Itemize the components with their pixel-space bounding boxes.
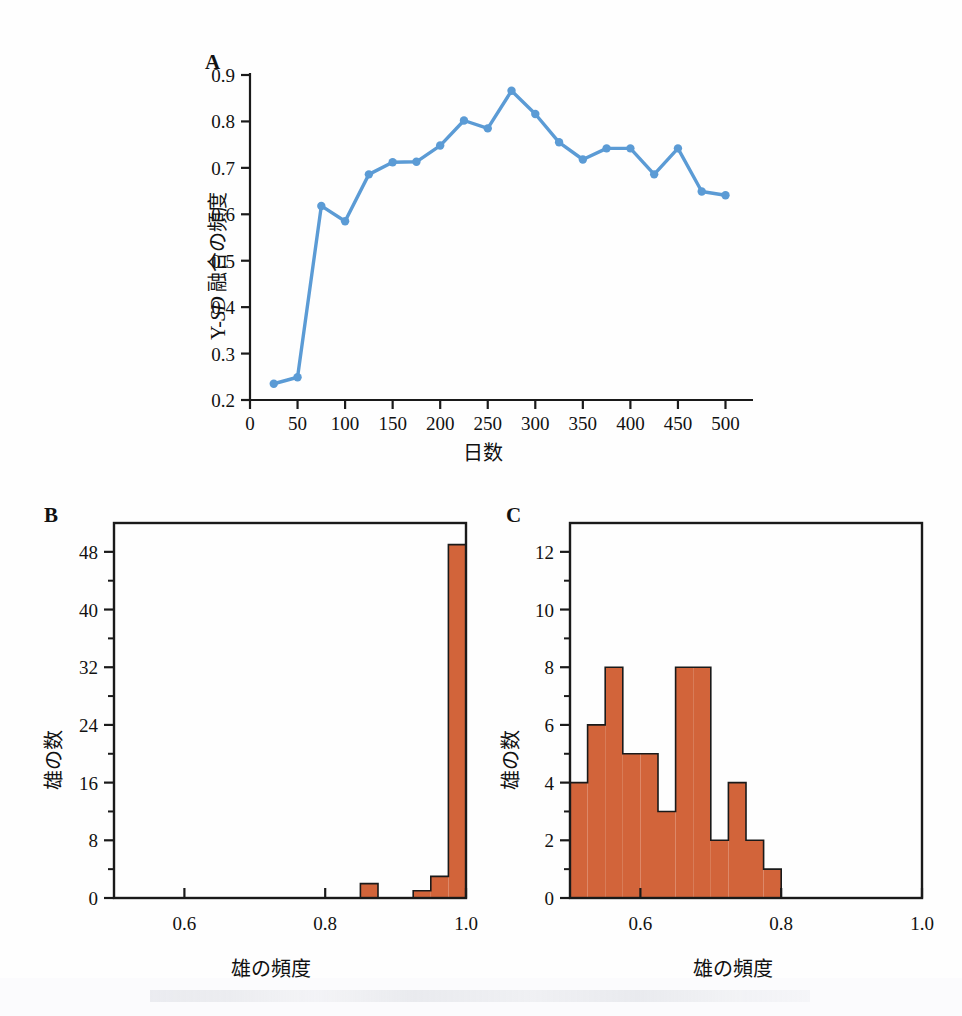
panel-c-plot: 0246810120.60.81.0 — [462, 500, 962, 950]
panel-c-bar — [764, 869, 782, 898]
panel-c-bar — [693, 667, 711, 898]
panel-c-bar — [676, 667, 694, 898]
panel-a-line-path — [274, 91, 726, 384]
panel-b-y-tick-label: 8 — [89, 830, 99, 851]
panel-b: B 雄の数 雄の頻度 0816243240480.60.81.0 — [0, 500, 500, 1000]
panel-a-data-point — [602, 144, 610, 152]
panel-c-y-tick-label: 12 — [535, 542, 554, 563]
panel-a-x-tick-label: 400 — [616, 413, 645, 434]
panel-c-x-tick-label: 1.0 — [910, 913, 934, 934]
panel-c-y-tick-label: 2 — [545, 830, 555, 851]
panel-b-y-tick-label: 0 — [89, 888, 99, 909]
panel-a-data-point — [650, 170, 658, 178]
panel-c-bar — [570, 783, 588, 898]
panel-a-series — [270, 87, 730, 388]
panel-c-bar — [658, 811, 676, 898]
panel-a-data-point — [674, 144, 682, 152]
panel-a-x-tick-label: 350 — [569, 413, 598, 434]
panel-c-y-tick-label: 0 — [545, 888, 555, 909]
panel-c-bar — [640, 754, 658, 898]
panel-a-data-point — [555, 138, 563, 146]
panel-a-x-tick-label: 50 — [288, 413, 307, 434]
panel-c-x-tick-label: 0.6 — [629, 913, 653, 934]
panel-b-y-tick-label: 40 — [79, 600, 98, 621]
panel-b-x-tick-label: 0.8 — [313, 913, 337, 934]
panel-a-y-tick-label: 0.3 — [211, 344, 235, 365]
panel-b-y-tick-label: 48 — [79, 542, 98, 563]
panel-a: A Y-SD 融合の頻度 日数 0.20.30.40.50.60.70.80.9… — [0, 0, 790, 480]
panel-b-y-tick-label: 16 — [79, 773, 98, 794]
panel-c-bar — [588, 725, 606, 898]
panel-c-y-tick-label: 8 — [545, 657, 555, 678]
panel-a-data-point — [388, 158, 396, 166]
panel-a-data-point — [436, 141, 444, 149]
panel-a-x-axis-title: 日数 — [463, 437, 503, 466]
panel-c-y-tick-label: 10 — [535, 600, 554, 621]
panel-c-x-tick-label: 0.8 — [769, 913, 793, 934]
panel-a-data-point — [698, 187, 706, 195]
panel-c-y-tick-label: 4 — [545, 773, 555, 794]
panel-b-bars — [114, 545, 466, 898]
page-bottom-faint-text — [150, 990, 810, 1002]
panel-b-axes: 0816243240480.60.81.0 — [79, 523, 478, 934]
panel-c-y-tick-label: 6 — [545, 715, 555, 736]
panel-b-y-tick-label: 24 — [79, 715, 99, 736]
panel-c-bar — [746, 840, 764, 898]
panel-a-y-tick-label: 0.5 — [211, 251, 235, 272]
panel-a-x-tick-label: 250 — [473, 413, 502, 434]
panel-a-data-point — [365, 170, 373, 178]
panel-b-bar — [431, 876, 449, 898]
panel-a-data-point — [626, 144, 634, 152]
panel-b-plot: 0816243240480.60.81.0 — [0, 500, 500, 950]
panel-a-x-tick-label: 150 — [378, 413, 407, 434]
panel-c-bar — [605, 667, 623, 898]
panel-a-data-point — [460, 116, 468, 124]
panel-a-data-point — [270, 380, 278, 388]
panel-b-bar — [360, 884, 378, 898]
panel-a-x-tick-label: 500 — [711, 413, 740, 434]
panel-a-x-tick-label: 200 — [426, 413, 455, 434]
panel-c-bar — [728, 783, 746, 898]
panel-b-x-tick-label: 0.6 — [173, 913, 197, 934]
panel-a-y-tick-label: 0.7 — [211, 158, 235, 179]
panel-c: C 雄の数 雄の頻度 0246810120.60.81.0 — [462, 500, 962, 1000]
panel-b-frame — [114, 523, 466, 898]
panel-a-y-tick-label: 0.8 — [211, 111, 235, 132]
panel-a-data-point — [341, 217, 349, 225]
panel-a-x-tick-label: 0 — [245, 413, 255, 434]
panel-b-y-tick-label: 32 — [79, 657, 98, 678]
panel-a-x-tick-label: 300 — [521, 413, 550, 434]
panel-a-x-tick-label: 100 — [331, 413, 360, 434]
panel-a-data-point — [484, 124, 492, 132]
panel-a-y-tick-label: 0.6 — [211, 204, 235, 225]
figure-root: A Y-SD 融合の頻度 日数 0.20.30.40.50.60.70.80.9… — [0, 0, 962, 1016]
panel-a-data-point — [317, 202, 325, 210]
panel-a-data-point — [293, 373, 301, 381]
panel-c-bars — [570, 667, 922, 898]
panel-a-data-point — [531, 110, 539, 118]
panel-a-y-tick-label: 0.4 — [211, 297, 235, 318]
panel-a-y-tick-label: 0.9 — [211, 65, 235, 86]
panel-a-data-point — [412, 158, 420, 166]
panel-a-data-point — [721, 191, 729, 199]
panel-a-y-tick-label: 0.2 — [211, 390, 235, 411]
panel-a-data-point — [507, 87, 515, 95]
panel-a-x-tick-label: 450 — [664, 413, 693, 434]
panel-c-bar — [623, 754, 641, 898]
panel-c-bar — [711, 840, 729, 898]
panel-a-data-point — [579, 155, 587, 163]
panel-a-plot: 0.20.30.40.50.60.70.80.90501001502002503… — [0, 0, 790, 430]
panel-b-outline — [114, 545, 466, 898]
